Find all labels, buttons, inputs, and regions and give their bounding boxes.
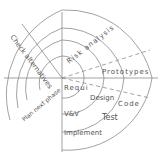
label-prototypes: Prototypes: [102, 69, 149, 76]
label-implement: Implement: [64, 130, 102, 137]
label-requirements: Requi: [64, 85, 89, 92]
label-design: Design: [90, 95, 114, 102]
spiral-diagram: Check alternatives Risk analysis Prototy…: [0, 0, 162, 160]
label-vv: V&V: [64, 111, 79, 118]
label-test: Test: [102, 114, 118, 122]
label-code: Code: [118, 101, 140, 108]
